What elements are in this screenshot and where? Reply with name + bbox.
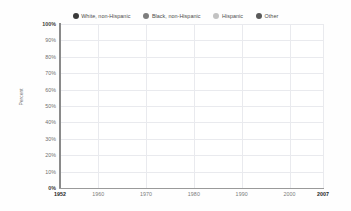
legend-marker-icon [213,13,219,19]
x-tick-label: 1980 [188,191,200,197]
legend-label: Other [265,13,279,19]
gridline [60,73,323,74]
gridline [60,57,323,58]
legend-item-0[interactable]: White, non-Hispanic [73,13,131,19]
x-tick-label: 1952 [54,191,66,197]
gridline [60,106,323,107]
gridline [60,172,323,173]
x-tick-label: 1990 [236,191,248,197]
gridline [290,24,291,188]
gridline [323,24,324,188]
plot-area [60,24,323,188]
gridline [60,139,323,140]
legend-label: Black, non-Hispanic [152,13,201,19]
legend-marker-icon [256,13,262,19]
gridline [60,122,323,123]
legend-item-2[interactable]: Hispanic [213,13,243,19]
y-axis-line [59,23,61,189]
legend-marker-icon [73,13,79,19]
legend-label: White, non-Hispanic [81,13,130,19]
gridline [98,24,99,188]
x-tick-label: 2000 [283,191,295,197]
y-tick-label: 100% [30,21,56,27]
y-tick-label: 60% [30,87,56,93]
y-tick-label: 40% [30,119,56,125]
y-axis-tick-labels: 0%10%20%30%40%50%60%70%80%90%100% [28,0,56,211]
gridline [194,24,195,188]
gridline [60,40,323,41]
legend-marker-icon [143,13,149,19]
legend-item-1[interactable]: Black, non-Hispanic [143,13,200,19]
x-tick-label: 2007 [317,191,329,197]
gridline [60,90,323,91]
legend-label: Hispanic [222,13,243,19]
line-chart: White, non-HispanicBlack, non-HispanicHi… [0,0,351,211]
y-tick-label: 0% [30,185,56,191]
y-tick-label: 80% [30,54,56,60]
x-axis-line [59,188,324,189]
gridline [60,155,323,156]
y-tick-label: 30% [30,136,56,142]
y-tick-label: 90% [30,37,56,43]
y-tick-label: 70% [30,70,56,76]
gridline [242,24,243,188]
gridline [60,24,323,25]
legend-item-3[interactable]: Other [256,13,278,19]
y-tick-label: 50% [30,103,56,109]
gridline [146,24,147,188]
y-tick-label: 20% [30,152,56,158]
y-axis-title: Percent [18,88,24,105]
y-tick-label: 10% [30,169,56,175]
x-tick-label: 1970 [140,191,152,197]
x-tick-label: 1960 [92,191,104,197]
